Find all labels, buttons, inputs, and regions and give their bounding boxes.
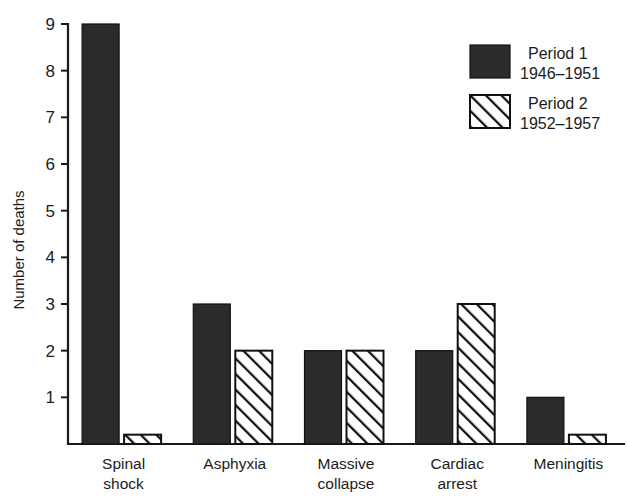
diagonal-hatch-swatch <box>470 95 510 128</box>
legend-label: Period 1 <box>528 45 588 62</box>
bar-chart-figure: 123456789 SpinalshockAsphyxiaMassivecoll… <box>0 0 627 502</box>
category-label: collapse <box>318 475 375 492</box>
bars-layer <box>82 24 606 444</box>
bar-hatch-3 <box>458 304 495 444</box>
bar-hatch-4 <box>569 435 606 444</box>
y-tick-label: 6 <box>46 155 55 174</box>
y-tick-label: 3 <box>46 295 55 314</box>
category-label: Spinal <box>102 455 145 472</box>
legend-sublabel: 1952–1957 <box>520 115 600 132</box>
solid-black-swatch <box>470 45 510 78</box>
y-tick-label: 2 <box>46 342 55 361</box>
bar-solid-1 <box>193 304 230 444</box>
bar-solid-2 <box>305 351 342 444</box>
y-tick-label: 9 <box>46 15 55 34</box>
y-tick-label: 1 <box>46 388 55 407</box>
bar-solid-4 <box>527 397 564 444</box>
category-label: arrest <box>437 475 477 492</box>
category-label: Asphyxia <box>203 455 266 472</box>
category-labels: SpinalshockAsphyxiaMassivecollapseCardia… <box>102 455 603 492</box>
bar-hatch-0 <box>124 435 161 444</box>
chart-canvas: 123456789 SpinalshockAsphyxiaMassivecoll… <box>0 0 627 502</box>
category-label: Massive <box>318 455 375 472</box>
y-axis-title-text: Number of deaths <box>10 190 27 309</box>
bar-hatch-1 <box>235 351 272 444</box>
bar-solid-0 <box>82 24 119 444</box>
y-tick-label: 5 <box>46 202 55 221</box>
category-label: shock <box>103 475 144 492</box>
legend-sublabel: 1946–1951 <box>520 65 600 82</box>
legend-label: Period 2 <box>528 95 588 112</box>
bar-hatch-2 <box>347 351 384 444</box>
y-tick-label: 7 <box>46 108 55 127</box>
category-label: Meningitis <box>534 455 604 472</box>
category-label: Cardiac <box>430 455 484 472</box>
chart-legend: Period 11946–1951Period 21952–1957 <box>470 45 600 132</box>
y-tick-label: 8 <box>46 62 55 81</box>
y-tick-label: 4 <box>46 248 55 267</box>
y-axis-title: Number of deaths <box>10 190 27 309</box>
bar-solid-3 <box>416 351 453 444</box>
